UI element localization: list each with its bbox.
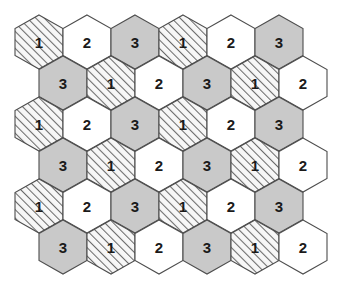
hex-cell-group: 123123312312123123312312123123312312 — [15, 15, 327, 274]
hex-grid-canvas: 123123312312123123312312123123312312 — [0, 0, 344, 297]
hex-tessellation-figure: 123123312312123123312312123123312312 — [0, 0, 344, 297]
